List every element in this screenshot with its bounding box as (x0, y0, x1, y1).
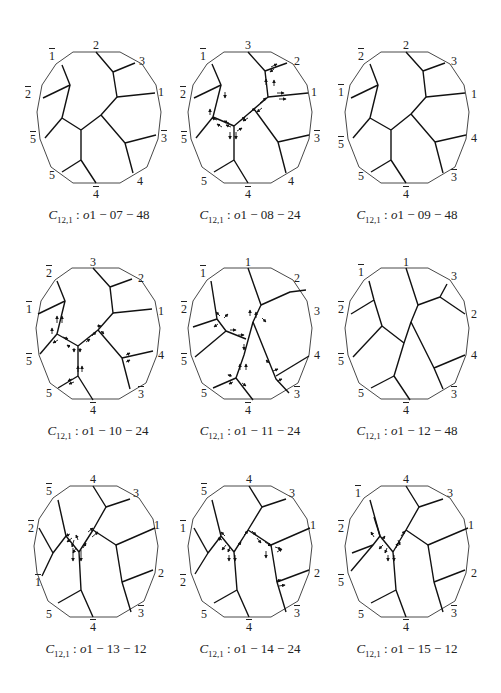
vertex-label: 5 (181, 133, 187, 145)
partition-edge (371, 376, 394, 388)
partition-edge (113, 63, 135, 72)
vertex-label: 2 (338, 303, 344, 315)
partition-edge (62, 65, 81, 130)
partition-edge (195, 331, 226, 357)
vertex-label: 4 (246, 473, 252, 485)
vertex-label: 1 (200, 50, 206, 62)
partition-edge (351, 300, 374, 314)
arrow-icon (214, 324, 218, 327)
vertex-label: 3 (289, 487, 295, 499)
diagrams-canvas (0, 0, 501, 693)
vertex-label: 3 (139, 55, 145, 67)
vertex-label: 5 (49, 169, 55, 181)
arrow-icon (228, 375, 232, 376)
partition-edge (234, 52, 268, 183)
vertex-label: 1 (180, 522, 186, 534)
vertex-label: 5 (338, 355, 344, 367)
arrow-icon (224, 314, 228, 318)
vertex-label: 4 (288, 175, 294, 187)
partition-edge (374, 517, 380, 536)
partition-edge (411, 322, 443, 389)
vertex-label: 3 (294, 388, 300, 400)
vertex-label: 2 (471, 567, 477, 579)
vertex-label: 4 (471, 132, 477, 144)
panel-12 (345, 268, 469, 400)
partition-edge (62, 160, 81, 172)
arrow-icon (273, 369, 278, 371)
arrow-icon (229, 382, 233, 384)
partition-edge (234, 486, 262, 617)
dodecagon-outline (37, 52, 161, 183)
partition-edge (98, 330, 130, 389)
partition-edge (419, 499, 443, 507)
partition-edge (106, 499, 130, 507)
vertex-label: 2 (358, 50, 364, 62)
partition-edge (78, 268, 113, 400)
vertex-label: 2 (46, 267, 52, 279)
arrow-icon (226, 125, 231, 127)
vertex-label: 2 (180, 576, 186, 588)
vertex-label: 2 (471, 308, 477, 320)
partition-edge (435, 135, 466, 142)
partition-edge (113, 309, 152, 313)
partition-edge (196, 117, 213, 138)
arrow-icon (371, 532, 374, 537)
arrow-icon (262, 318, 266, 322)
arrow-icon (228, 547, 230, 552)
vertex-label: 1 (358, 266, 364, 278)
partition-edge (213, 378, 236, 388)
partition-edge (406, 528, 468, 545)
partition-edge (45, 118, 62, 138)
partition-edge (393, 486, 419, 617)
arrow-icon (257, 108, 262, 112)
vertex-label: 3 (451, 607, 457, 619)
arrow-icon (92, 532, 98, 537)
arrow-icon (385, 548, 387, 553)
arrow-icon (76, 535, 78, 540)
panel-caption: C12,1 : o1 − 12 − 48 (356, 423, 457, 441)
partition-edge (39, 528, 53, 553)
vertex-label: 1 (403, 256, 409, 268)
partition-edge (38, 301, 65, 314)
partition-edge (278, 135, 309, 142)
vertex-label: 1 (311, 86, 317, 98)
partition-edge (434, 570, 465, 582)
vertex-label: 5 (26, 355, 32, 367)
partition-edge (351, 536, 380, 571)
vertex-label: 1 (158, 86, 164, 98)
vertex-label: 4 (158, 349, 164, 361)
vertex-label: 3 (447, 487, 453, 499)
vertex-label: 2 (294, 55, 300, 67)
partition-edge (214, 160, 234, 172)
partition-edge (79, 486, 106, 617)
arrow-icon (279, 585, 285, 586)
vertex-label: 2 (181, 303, 187, 315)
arrow-icon (260, 98, 266, 103)
vertex-label: 1 (158, 305, 164, 317)
panel-13 (34, 486, 158, 617)
panel-15 (345, 486, 469, 617)
partition-edge (93, 528, 155, 545)
partition-edge (351, 85, 378, 98)
vertex-label: 3 (451, 388, 457, 400)
vertex-label: 4 (246, 621, 252, 633)
vertex-label: 2 (294, 272, 300, 284)
vertex-label: 4 (90, 473, 96, 485)
vertex-label: 5 (358, 608, 364, 620)
partition-edge (391, 52, 426, 183)
vertex-label: 4 (403, 188, 409, 200)
dodecagon-outline (345, 486, 469, 617)
vertex-label: 5 (181, 355, 187, 367)
vertex-label: 3 (133, 487, 139, 499)
partition-edge (101, 115, 133, 173)
partition-edge (411, 114, 443, 173)
partition-edge (193, 319, 217, 327)
partition-edge (353, 326, 382, 357)
partition-edge (214, 590, 237, 603)
partition-edge (440, 297, 465, 314)
panel-08 (188, 52, 312, 183)
vertex-label: 3 (138, 388, 144, 400)
partition-edge (43, 85, 70, 98)
partition-edge (122, 570, 153, 582)
vertex-label: 1 (35, 576, 41, 588)
